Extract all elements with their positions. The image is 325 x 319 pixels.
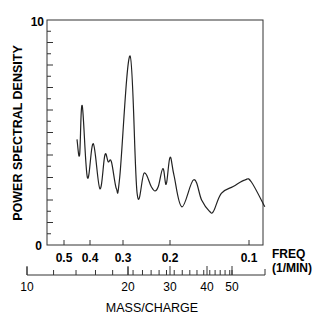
mass-tick-label: 50 xyxy=(225,280,239,294)
mass-tick-label: 10 xyxy=(20,280,34,294)
freq-label-line2: (1/MIN) xyxy=(272,261,312,275)
freq-tick-label: 0.5 xyxy=(56,251,73,265)
freq-tick-label: 0.3 xyxy=(115,251,132,265)
freq-tick-label: 0.1 xyxy=(241,251,258,265)
y-axis-title: POWER SPECTRAL DENSITY xyxy=(11,45,25,221)
mass-tick-label: 30 xyxy=(163,280,177,294)
mass-tick-label: 20 xyxy=(121,280,135,294)
freq-axis-labels: 0.50.40.30.20.1 xyxy=(56,251,258,265)
spectrum-curve xyxy=(77,56,265,213)
freq-axis-ticks xyxy=(64,240,249,245)
power-spectrum-chart: 10 0 POWER SPECTRAL DENSITY 0.50.40.30.2… xyxy=(0,0,325,319)
freq-tick-label: 0.2 xyxy=(162,251,179,265)
y-tick-0: 0 xyxy=(35,239,42,253)
y-tick-10: 10 xyxy=(31,15,45,29)
mass-axis-title: MASS/CHARGE xyxy=(106,301,198,315)
mass-axis-ticks xyxy=(27,266,265,275)
freq-label-line1: FREQ xyxy=(272,247,305,261)
plot-frame xyxy=(47,20,263,245)
freq-tick-label: 0.4 xyxy=(82,251,99,265)
mass-axis-labels: 1020304050 xyxy=(20,280,239,294)
y-axis-ticks xyxy=(47,31,53,234)
mass-tick-label: 40 xyxy=(200,280,214,294)
